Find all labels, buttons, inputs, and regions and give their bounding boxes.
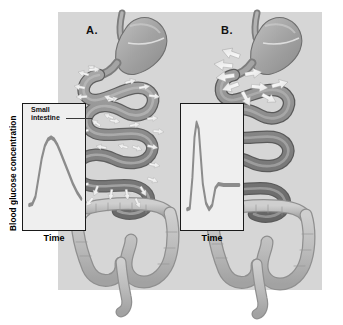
panel-label-a: A. bbox=[86, 24, 98, 36]
x-axis-label-b: Time bbox=[180, 233, 244, 243]
inset-graph-b bbox=[180, 103, 244, 231]
y-axis-label-a: Blood glucose concentration bbox=[9, 103, 18, 231]
x-axis-label-a: Time bbox=[22, 233, 86, 243]
glucose-curve-b bbox=[181, 104, 243, 230]
glucose-curve-a bbox=[23, 104, 85, 230]
panel-label-b: B. bbox=[221, 24, 233, 36]
figure-root: A. B. Blood glucose concentration Time S… bbox=[0, 0, 343, 325]
small-intestine-callout: Small intestine bbox=[31, 106, 71, 123]
callout-leader-line bbox=[66, 118, 92, 119]
